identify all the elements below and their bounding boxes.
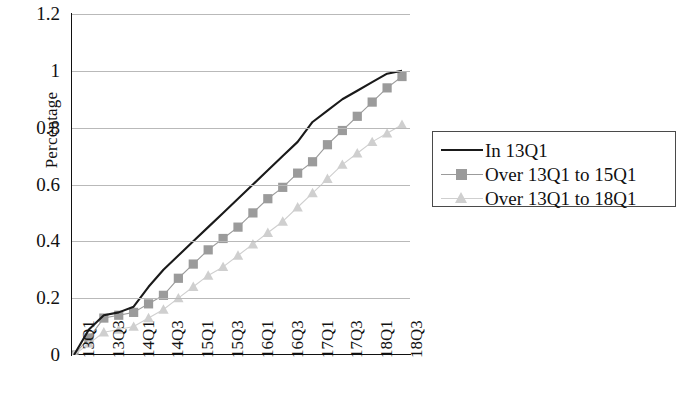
data-point-marker	[352, 148, 362, 157]
gridline	[72, 14, 410, 15]
data-point-marker	[308, 157, 317, 166]
x-tick-label: 16Q3	[289, 320, 306, 358]
data-point-marker	[188, 282, 198, 291]
data-point-marker	[203, 270, 213, 279]
x-tick-label: 18Q3	[408, 320, 425, 358]
y-axis-tick-labels: 00.20.40.60.811.2	[14, 0, 66, 412]
gridline	[72, 185, 410, 186]
legend-item-1[interactable]: In 13Q1	[439, 138, 675, 162]
x-tick-label: 16Q1	[259, 320, 276, 358]
gridline	[72, 71, 410, 72]
data-point-marker	[218, 262, 228, 271]
data-point-marker	[204, 245, 213, 254]
y-tick-label: 0.6	[36, 175, 60, 195]
gridline	[72, 241, 410, 242]
x-tick-label: 18Q1	[378, 320, 395, 358]
legend-label: Over 13Q1 to 18Q1	[485, 188, 636, 209]
legend-line	[441, 149, 483, 151]
legend: In 13Q1Over 13Q1 to 15Q1Over 13Q1 to 18Q…	[432, 131, 676, 207]
y-tick-label: 1.2	[36, 4, 60, 24]
plot-area	[72, 14, 410, 355]
x-tick-label: 15Q3	[229, 320, 246, 358]
data-point-marker	[189, 259, 198, 268]
data-point-marker	[382, 83, 391, 92]
y-tick-label: 0.2	[36, 288, 60, 308]
data-point-marker	[293, 169, 302, 178]
y-tick-label: 0.4	[36, 231, 60, 251]
data-point-marker	[367, 137, 377, 146]
data-point-marker	[382, 128, 392, 137]
data-point-marker	[174, 274, 183, 283]
x-tick-label: 14Q1	[140, 320, 157, 358]
data-point-marker	[323, 140, 332, 149]
legend-item-3[interactable]: Over 13Q1 to 18Q1	[439, 186, 675, 210]
gridline	[72, 298, 410, 299]
data-point-marker	[263, 228, 273, 237]
legend-marker-icon	[439, 139, 485, 161]
x-tick-label: 15Q1	[199, 320, 216, 358]
legend-label: Over 13Q1 to 15Q1	[485, 164, 636, 185]
data-point-marker	[144, 299, 153, 308]
data-point-marker	[397, 72, 406, 81]
legend-label: In 13Q1	[485, 140, 548, 161]
legend-marker-icon	[439, 163, 485, 185]
data-point-marker	[129, 308, 138, 317]
data-point-marker	[158, 304, 168, 313]
series-2	[72, 72, 407, 355]
y-tick-label: 0.8	[36, 118, 60, 138]
x-axis-tick-labels: 13Q113Q314Q114Q315Q115Q316Q116Q317Q117Q3…	[0, 356, 430, 412]
legend-item-2[interactable]: Over 13Q1 to 15Q1	[439, 162, 675, 186]
x-tick-label: 17Q3	[348, 320, 365, 358]
data-point-marker	[248, 208, 257, 217]
data-point-marker	[263, 194, 272, 203]
gridline	[72, 128, 410, 129]
legend-marker-icon	[439, 187, 485, 209]
y-tick-label: 1	[51, 61, 61, 81]
x-tick-label: 17Q1	[319, 320, 336, 358]
data-point-marker	[233, 250, 243, 259]
data-point-marker	[337, 159, 347, 168]
data-point-marker	[233, 223, 242, 232]
data-point-marker	[368, 97, 377, 106]
x-tick-label: 14Q3	[169, 320, 186, 358]
legend-square-icon	[456, 169, 467, 180]
x-tick-label: 13Q1	[80, 320, 97, 358]
data-point-marker	[128, 321, 138, 330]
legend-triangle-icon	[455, 192, 467, 203]
x-tick-label: 13Q3	[110, 320, 127, 358]
data-point-marker	[353, 112, 362, 121]
